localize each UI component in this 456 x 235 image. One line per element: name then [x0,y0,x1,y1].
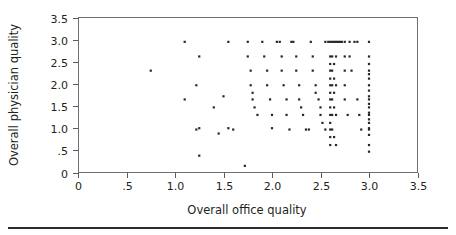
data-point [295,70,297,72]
data-point [327,41,329,43]
data-point [368,122,370,124]
data-point [344,70,346,72]
y-tick-label: 3.5 [51,13,69,26]
y-axis-title: Overall physician quality [7,24,21,166]
data-point [250,70,252,72]
data-point [368,151,370,153]
data-point [335,84,337,86]
data-point [329,63,331,65]
data-point [329,98,331,100]
data-point [368,114,370,116]
data-point [358,114,360,116]
y-tick-label: 1.5 [51,101,69,114]
data-point [261,41,263,43]
data-point [329,78,331,80]
data-point [356,98,358,100]
data-point [244,165,246,167]
data-point [333,136,335,138]
data-point [335,144,337,146]
data-point [353,41,355,43]
data-point [333,41,335,43]
x-axis-ticks [79,173,419,178]
data-point [344,55,346,57]
data-point [368,78,370,80]
y-tick-label: 0 [61,168,68,181]
data-point [292,41,294,43]
data-point [333,106,335,108]
data-point [195,128,197,130]
data-point [333,92,335,94]
data-point [341,41,343,43]
data-point [256,114,258,116]
data-point [329,114,331,116]
data-point [198,127,200,129]
data-point [368,144,370,146]
data-point [331,41,333,43]
data-point [247,55,249,57]
data-point [335,114,337,116]
x-tick-label: .5 [122,180,133,193]
scatter-points [150,41,370,167]
data-point [329,92,331,94]
data-point [308,128,310,130]
data-point [347,114,349,116]
data-point [329,55,331,57]
data-point [266,84,268,86]
data-point [368,73,370,75]
data-point [368,128,370,130]
x-tick-label: 1.5 [216,180,234,193]
scatter-plot-figure: 0.51.01.52.02.53.03.5 0.51.01.52.02.53.0… [0,0,456,235]
x-axis-title: Overall office quality [187,203,306,217]
data-point [150,70,152,72]
data-point [252,92,254,94]
data-point [281,70,283,72]
y-tick-label: 1.0 [51,123,69,136]
data-point [331,114,333,116]
data-point [335,41,337,43]
data-point [195,84,197,86]
data-point [276,41,278,43]
y-tick-label: .5 [58,145,69,158]
x-tick-label: 3.5 [410,180,428,193]
data-point [250,84,252,86]
data-point [281,55,283,57]
data-point [321,122,323,124]
data-point [285,114,287,116]
data-point [269,98,271,100]
data-point [368,63,370,65]
data-point [253,106,255,108]
y-tick-label: 2.0 [51,79,69,92]
x-tick-label: 2.5 [313,180,331,193]
data-point [344,98,346,100]
data-point [324,128,326,130]
data-point [368,84,370,86]
data-point [368,70,370,72]
data-point [222,95,224,97]
data-point [329,41,331,43]
y-axis-ticks [73,19,78,174]
x-axis-tick-labels: 0.51.01.52.02.53.03.5 [75,180,427,193]
data-point [333,78,335,80]
data-point [333,63,335,65]
data-point [298,84,300,86]
data-point [329,144,331,146]
data-point [331,70,333,72]
data-point [283,84,285,86]
data-point [271,114,273,116]
data-point [213,106,215,108]
data-point [331,55,333,57]
data-point [368,95,370,97]
y-axis-tick-labels: 0.51.01.52.02.53.03.5 [51,13,69,181]
data-point [218,132,220,134]
data-point [324,41,326,43]
data-point [368,41,370,43]
data-point [310,41,312,43]
data-point [329,136,331,138]
data-point [252,98,254,100]
data-point [295,55,297,57]
x-tick-label: 3.0 [361,180,379,193]
data-point [198,155,200,157]
data-point [331,98,333,100]
data-point [319,106,321,108]
data-point [263,55,265,57]
